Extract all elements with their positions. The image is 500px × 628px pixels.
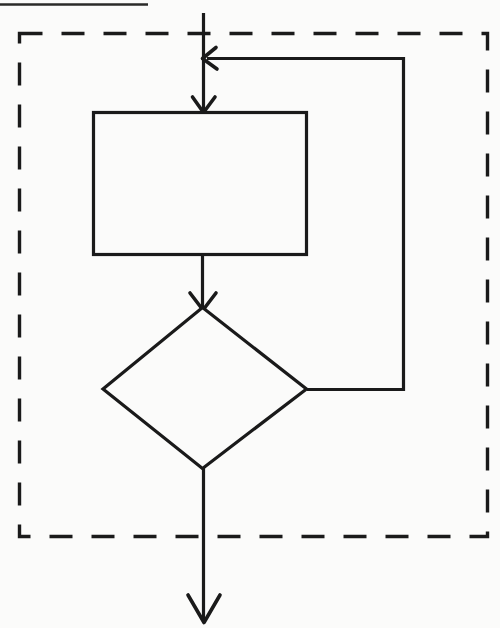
dashed-loop-boundary	[20, 34, 488, 537]
decision-node[interactable]	[103, 308, 307, 469]
flowchart-figure	[0, 0, 500, 628]
process-node[interactable]	[94, 113, 307, 255]
diagram-canvas	[0, 0, 500, 628]
